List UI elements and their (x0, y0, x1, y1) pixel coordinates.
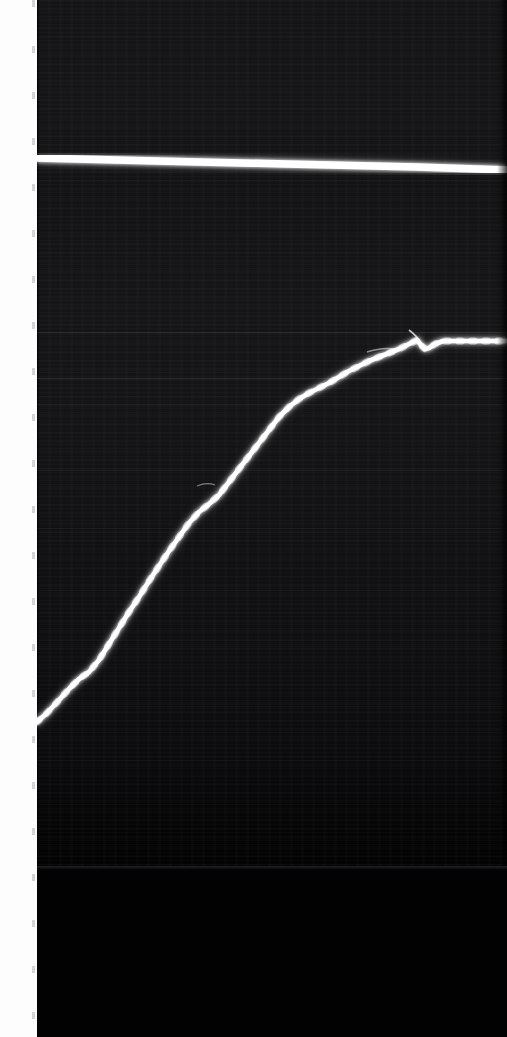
trace-canvas (37, 0, 507, 872)
plate-right-edge (497, 0, 507, 872)
left-margin-strip: Copyright © 1987 by Houghton Mifflin Com… (0, 0, 37, 1037)
plate-bottom-black-area (37, 866, 507, 1037)
plate-left-gutter (37, 0, 40, 872)
sigmoid-trace (37, 340, 507, 722)
guide-line (37, 706, 507, 707)
trace-flare (409, 330, 421, 343)
scanned-page: Copyright © 1987 by Houghton Mifflin Com… (0, 0, 507, 1037)
trace-flare (367, 348, 395, 352)
sigmoid-trace-ragged-edge (37, 340, 507, 722)
scanline-texture (37, 0, 507, 872)
binding-perforations (32, 0, 35, 1037)
guide-line (37, 760, 507, 761)
top-horizontal-trace-halo (37, 158, 507, 170)
film-grain-texture (37, 0, 507, 872)
guide-line (37, 404, 507, 405)
guide-line (37, 646, 507, 647)
guide-line (37, 528, 507, 529)
photographic-plate (37, 0, 507, 872)
plate-bottom-edge (37, 866, 507, 870)
guide-line (37, 590, 507, 591)
guide-line (37, 378, 507, 379)
top-horizontal-trace (37, 158, 507, 170)
guide-line (37, 332, 507, 333)
trace-flare (197, 484, 215, 486)
guide-line (37, 470, 507, 471)
sigmoid-trace-halo (37, 340, 507, 722)
